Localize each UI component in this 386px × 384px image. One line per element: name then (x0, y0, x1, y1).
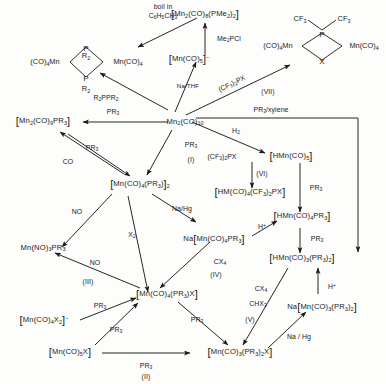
node-mn2co8-pme2-2: [Mn2(CO)8(PMe2)2] (171, 9, 239, 21)
label-pr3-up: PR3 (86, 144, 99, 153)
node-mnco5x: [Mn(CO)5X] (49, 347, 92, 359)
label-roman-v: (V) (245, 316, 255, 324)
label-no-iii: NO (90, 259, 101, 267)
arrow-h2 (192, 122, 265, 153)
arrow-pr3-anion (80, 298, 136, 320)
structure-cf3-left: CF3 (294, 14, 307, 23)
node-mn2co10: Mn2(CO)10 (166, 118, 203, 127)
arrow-cx4-iv (160, 242, 210, 288)
node-mnno3pr3: Mn(NO)3PR3 (21, 244, 66, 253)
label-roman-iv: (IV) (210, 271, 222, 279)
arrow-co (60, 132, 124, 174)
arrow-pr3-up (68, 134, 130, 176)
label-h2: H2 (232, 127, 240, 136)
node-na-mnco4pr3: Na[Mn(CO)4PR3] (183, 234, 244, 246)
label-co: CO (63, 158, 74, 166)
label-roman-i: (I) (188, 156, 195, 164)
arrow-na-hg-right (268, 312, 306, 348)
label-pr3-to-mn2co9pr3: PR3 (107, 108, 120, 117)
label-cf3-2px-vi: (CF3)2PX (207, 153, 236, 162)
label-chx3-v: CHX3 (249, 300, 267, 309)
label-roman-vii: (VII) (261, 88, 275, 96)
node-mnco5-anion: [Mn(CO)5]− (169, 54, 210, 66)
label-roman-vi: (VI) (256, 170, 268, 178)
label-pr3-hmn: PR3 (311, 235, 324, 244)
arrow-x2 (128, 196, 148, 292)
label-na-thf: Na/THF (177, 83, 199, 90)
label-h-plus-2: H+ (328, 283, 336, 291)
structure-right-mn-cf3: Mn(CO)4 (349, 41, 378, 50)
node-na-mnco3-pr3-2: Na[Mn(CO)3(PR3)2] (287, 302, 357, 314)
arrow-pr3-xylene (196, 118, 358, 252)
label-pr3-hmnco5: PR3 (310, 184, 323, 193)
node-hmnco5: [HMn(CO)5] (269, 151, 312, 163)
label-pr3-down: PR3 (191, 316, 204, 325)
label-pr3-xylene: PR3/xylene (253, 106, 288, 115)
svg-text:P: P (83, 74, 88, 83)
structure-pr2-bridged-dimer: P P R2 R2 (CO)4Mn Mn(CO)4 (23, 26, 153, 98)
label-h-plus-1: H+ (258, 223, 266, 231)
node-hmnco3-pr3-2: [HMn(CO)3(PR3)2] (269, 253, 334, 265)
label-na-hg-mid: Na/Hg (172, 205, 192, 213)
node-mnco4pr3-dimer: [Mn(CO)4(PR3)]2 (110, 179, 170, 191)
structure-cf3-px-bridged-dimer: P X CF3 CF3 (CO)4Mn Mn(CO)4 (260, 14, 384, 80)
arrow-no-left (62, 194, 112, 247)
structure-top-substituent: R2 (82, 51, 90, 60)
label-cx4-iv: CX4 (214, 258, 227, 267)
label-me2pcl: Me2PCl (217, 35, 241, 44)
label-boil-toluene: boil in C6H5CH3 (149, 2, 178, 22)
node-mnco3-pr3-2-x: [Mn(CO)3(PR3)2X] (208, 347, 273, 359)
label-pr3-ii: PR3 (140, 362, 153, 371)
structure-bottom-substituent: R2 (82, 84, 90, 93)
label-pr3-anion: PR3 (94, 302, 107, 311)
label-roman-ii: (II) (142, 373, 151, 381)
label-x2: X2 (128, 231, 135, 240)
structure-left-mn: (CO)4Mn (30, 57, 59, 66)
svg-text:X: X (319, 57, 325, 66)
node-mn2co9pr3: [Mn2(CO)9PR3] (16, 116, 70, 128)
label-pr3-i: PR3 (185, 141, 198, 150)
arrow-pr3-i (147, 130, 172, 175)
svg-text:P: P (319, 30, 324, 39)
label-cx4-v: CX4 (255, 285, 268, 294)
label-no-left: NO (72, 208, 83, 216)
structure-cf3-right: CF3 (338, 14, 351, 23)
node-mnco4-pr3-x: [Mn(CO)4(PR3)X] (136, 289, 198, 301)
node-hmnco4pr3: [HMn(CO)4PR3] (274, 211, 331, 223)
label-pr3-mnco5x: PR3 (110, 326, 123, 335)
structure-right-mn: Mn(CO)4 (113, 57, 142, 66)
node-mnco4x2-anion: [Mn(CO)4X2]− (20, 315, 69, 327)
label-r2ppr2: R2PPR2 (93, 94, 118, 103)
node-hmco4-cf3-2px: [HM(CO)4(CF3)2PX] (215, 187, 286, 199)
reaction-scheme-diagram: P P R2 R2 (CO)4Mn Mn(CO)4 P X CF3 CF3 (C… (0, 0, 386, 384)
label-roman-iii: (III) (83, 278, 94, 286)
label-na-hg-right: Na / Hg (287, 333, 311, 341)
structure-left-mn-cf3: (CO)4Mn (263, 41, 292, 50)
